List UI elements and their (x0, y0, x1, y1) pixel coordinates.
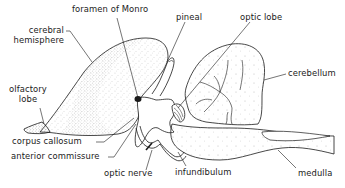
label-medulla: medulla (298, 169, 332, 179)
label-cerebellum: cerebellum (288, 69, 336, 79)
label-olfactory-line2: lobe (6, 95, 50, 105)
leader-pineal (167, 22, 185, 62)
label-anterior-commissure: anterior commissure (11, 152, 100, 162)
optic-lobe (172, 104, 185, 122)
label-pineal: pineal (176, 13, 202, 23)
label-infundibulum: infundibulum (175, 168, 231, 178)
label-optic-nerve: optic nerve (104, 169, 152, 179)
leader-infundibulum (178, 152, 186, 166)
label-corpus-callosum: corpus callosum (12, 137, 82, 147)
cerebellum (185, 44, 264, 125)
label-cerebral-hemisphere: cerebral hemisphere (10, 26, 64, 45)
label-optic-lobe: optic lobe (240, 13, 282, 23)
leader-cerebellum (264, 74, 286, 80)
leader-optic-nerve (146, 150, 152, 170)
diencephalon (135, 96, 176, 147)
medulla (171, 124, 334, 160)
label-olfactory-lobe: olfactory lobe (6, 85, 50, 104)
leader-cerebral (66, 31, 92, 62)
label-cerebral-line2: hemisphere (10, 36, 64, 46)
olfactory-lobe (24, 122, 50, 134)
leader-medulla (278, 150, 296, 168)
label-foramen-of-monro: foramen of Monro (72, 5, 148, 15)
